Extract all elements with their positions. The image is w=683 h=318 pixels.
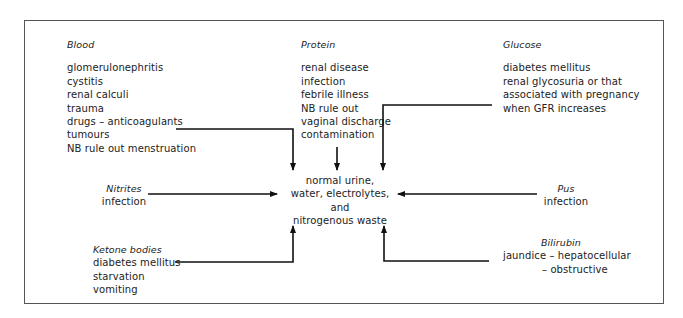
glucose-arrow <box>383 105 492 170</box>
blood-arrow <box>176 129 293 170</box>
ketone-arrow <box>175 226 293 262</box>
bilirubin-arrow <box>384 226 489 261</box>
arrows-layer <box>0 0 683 318</box>
